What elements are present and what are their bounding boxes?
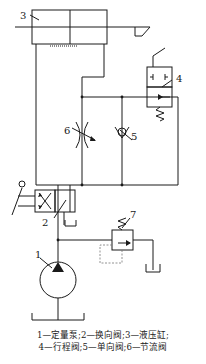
label-4: 4 bbox=[176, 73, 182, 84]
pipelines bbox=[36, 44, 178, 190]
hydraulic-cylinder bbox=[15, 10, 150, 46]
label-2: 2 bbox=[42, 217, 48, 228]
check-valve bbox=[115, 127, 132, 140]
label-5: 5 bbox=[131, 131, 137, 142]
label-1: 1 bbox=[35, 249, 41, 260]
travel-valve bbox=[147, 48, 172, 121]
caption-line-1: 1—定量泵;2—换向阀;3—液压缸; bbox=[0, 330, 206, 341]
label-7: 7 bbox=[130, 209, 136, 220]
relief-valve bbox=[57, 212, 160, 272]
fixed-displacement-pump bbox=[32, 258, 84, 320]
label-6: 6 bbox=[64, 125, 70, 136]
hydraulic-circuit-diagram: 3 4 6 5 bbox=[0, 0, 206, 364]
throttle-valve bbox=[72, 122, 96, 148]
label-3: 3 bbox=[20, 10, 26, 21]
caption-line-2: 4—行程阀;5—单向阀;6—节流阀 bbox=[0, 342, 206, 353]
